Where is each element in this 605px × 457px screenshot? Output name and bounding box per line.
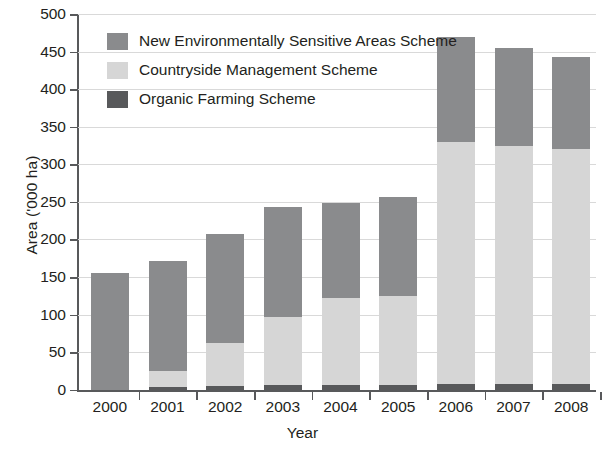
bar-segment xyxy=(437,384,475,390)
y-tick-mark xyxy=(70,164,78,166)
y-tick-mark xyxy=(70,14,78,16)
y-tick-label: 100 xyxy=(6,306,66,324)
legend-item: Countryside Management Scheme xyxy=(107,57,457,83)
y-tick-mark xyxy=(70,52,78,54)
legend-swatch-icon xyxy=(107,62,128,79)
bar-segment xyxy=(91,273,129,389)
y-tick-mark xyxy=(70,239,78,241)
legend-item-label: New Environmentally Sensitive Areas Sche… xyxy=(139,32,457,50)
bar-stack xyxy=(149,261,187,390)
x-axis-line xyxy=(77,390,596,392)
bar-segment xyxy=(495,384,533,390)
bar-segment xyxy=(264,317,302,385)
y-tick-label: 350 xyxy=(6,118,66,136)
legend-item-label: Countryside Management Scheme xyxy=(139,61,378,79)
y-tick-mark xyxy=(70,315,78,317)
y-tick-label: 400 xyxy=(6,80,66,98)
bar-stack xyxy=(322,203,360,389)
y-tick-label: 200 xyxy=(6,230,66,248)
legend-item: New Environmentally Sensitive Areas Sche… xyxy=(107,28,457,54)
stacked-bar-chart: Area ('000 ha) New Environmentally Sensi… xyxy=(0,0,605,457)
bar-segment xyxy=(495,48,533,146)
bar-stack xyxy=(206,234,244,390)
bar-segment xyxy=(322,298,360,385)
bar-segment xyxy=(206,386,244,390)
bar-segment xyxy=(149,387,187,390)
y-tick-label: 300 xyxy=(6,155,66,173)
legend-swatch-icon xyxy=(107,33,128,50)
bar-segment xyxy=(379,197,417,295)
bar-segment xyxy=(552,57,590,149)
y-tick-label: 250 xyxy=(6,193,66,211)
x-axis-title: Year xyxy=(0,424,605,442)
y-tick-mark xyxy=(70,352,78,354)
bar-stack xyxy=(552,57,590,390)
y-tick-mark xyxy=(70,202,78,204)
y-tick-mark xyxy=(70,390,78,392)
plot-area: New Environmentally Sensitive Areas Sche… xyxy=(77,14,596,392)
legend-item: Organic Farming Scheme xyxy=(107,86,457,112)
bar-segment xyxy=(552,149,590,384)
bar-segment xyxy=(437,142,475,384)
bar-segment xyxy=(149,371,187,387)
bar-segment xyxy=(264,385,302,390)
bar-stack xyxy=(495,48,533,390)
y-tick-label: 450 xyxy=(6,43,66,61)
legend-item-label: Organic Farming Scheme xyxy=(139,90,316,108)
x-tick-label: 2008 xyxy=(536,398,605,416)
bar-segment xyxy=(552,384,590,390)
legend-swatch-icon xyxy=(107,91,128,108)
chart-legend: New Environmentally Sensitive Areas Sche… xyxy=(107,28,457,115)
bar-segment xyxy=(322,203,360,298)
bar-segment xyxy=(379,385,417,390)
y-tick-mark xyxy=(70,277,78,279)
bar-segment xyxy=(149,261,187,371)
y-tick-mark xyxy=(70,127,78,129)
y-tick-label: 150 xyxy=(6,268,66,286)
bar-stack xyxy=(379,197,417,389)
y-tick-label: 50 xyxy=(6,343,66,361)
bar-stack xyxy=(264,207,302,390)
bar-stack xyxy=(91,273,129,389)
bar-segment xyxy=(264,207,302,317)
y-tick-label: 500 xyxy=(6,5,66,23)
y-tick-label: 0 xyxy=(6,381,66,399)
bar-segment xyxy=(495,146,533,384)
bar-segment xyxy=(322,385,360,390)
bar-segment xyxy=(206,234,244,343)
gridline xyxy=(77,14,596,15)
bar-segment xyxy=(206,343,244,386)
y-tick-mark xyxy=(70,89,78,91)
bar-segment xyxy=(379,296,417,385)
